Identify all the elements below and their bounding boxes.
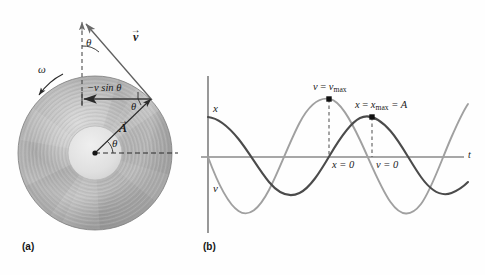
vmax-point-marker	[326, 96, 331, 101]
t-axis-label: t	[468, 150, 471, 160]
velocity-curve	[208, 99, 468, 214]
panel-a-tag: (a)	[22, 242, 34, 252]
v-max-annotation: v = vmax	[313, 82, 347, 93]
theta-center-label: θ	[112, 138, 117, 149]
xmax-point-marker	[369, 114, 374, 119]
amplitude-arrow-glyph: →	[118, 116, 128, 126]
omega-label: ω	[38, 64, 46, 75]
velocity-arrow-glyph: →	[131, 25, 141, 35]
panel-b-tag: (b)	[203, 242, 216, 252]
v-zero-annotation: v = 0	[376, 160, 398, 171]
theta-top-label: θ	[86, 37, 91, 48]
record-center-dot	[92, 150, 97, 155]
amplitude-vector-label: →A	[119, 122, 127, 134]
v-curve-label: v	[213, 183, 218, 194]
physics-figure-shm-record: ω θ →v −v sin θ θ →A θ x v t v = vmax x …	[0, 0, 485, 275]
x-max-annotation: x = xmax = A	[355, 100, 407, 111]
displacement-curve	[208, 116, 468, 195]
velocity-vector-label: →v	[133, 31, 138, 43]
horizontal-component-label: −v sin θ	[87, 83, 121, 94]
x-zero-annotation: x = 0	[332, 160, 354, 171]
figure-canvas	[0, 0, 485, 275]
x-curve-label: x	[213, 103, 218, 114]
theta-rim-label: θ	[131, 102, 136, 113]
